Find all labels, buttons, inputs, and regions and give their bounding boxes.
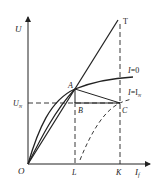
- point-B-label: B: [78, 106, 83, 115]
- point-L-label: L: [71, 168, 77, 177]
- point-C-label: C: [122, 106, 128, 115]
- no-load-curve-label: I=0: [127, 66, 139, 75]
- x-axis-label: If: [134, 167, 141, 178]
- un-label: UN: [13, 99, 23, 109]
- point-T-label: T: [123, 17, 128, 26]
- y-axis-label: U: [15, 24, 22, 34]
- origin-label: O: [18, 166, 25, 176]
- point-K-label: K: [115, 168, 122, 177]
- characteristic-diagram: U O If T A B C L K UN I=0 I=IN: [0, 0, 160, 192]
- no-load-curve: [28, 77, 133, 164]
- point-A-label: A: [67, 81, 73, 90]
- field-resistance-line-OT: [28, 20, 118, 164]
- load-curve-label: I=IN: [127, 88, 142, 98]
- segment-AC: [75, 89, 120, 103]
